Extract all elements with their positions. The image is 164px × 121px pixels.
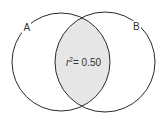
label-a: A — [24, 22, 31, 33]
venn-diagram: A B r2= 0.50 — [0, 0, 164, 121]
label-b: B — [133, 21, 140, 32]
